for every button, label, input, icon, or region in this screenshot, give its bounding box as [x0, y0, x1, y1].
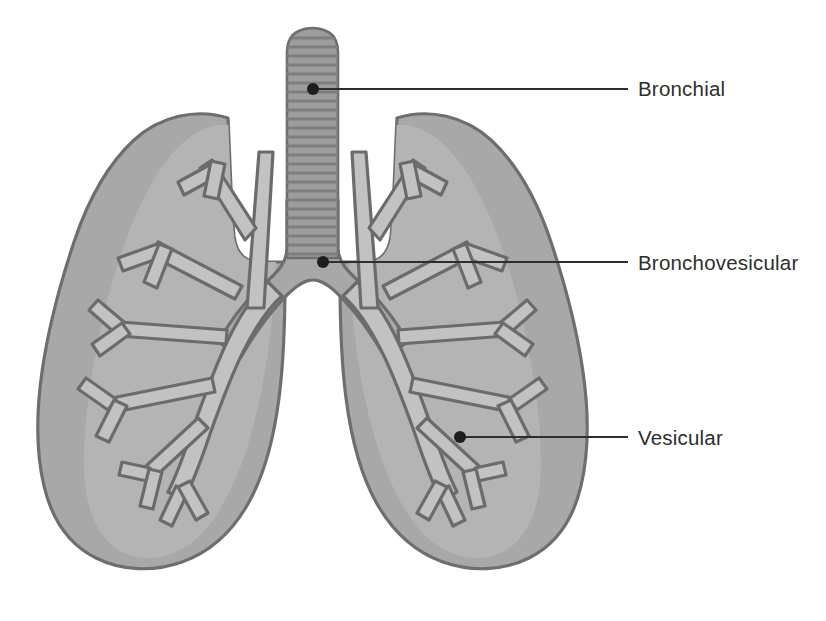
callout-label-bronchial: Bronchial — [638, 79, 725, 100]
trachea-tube — [287, 28, 338, 258]
callout-bronchial — [307, 83, 628, 95]
callout-label-vesicular: Vesicular — [638, 428, 723, 449]
trachea — [283, 28, 342, 258]
lung-diagram: Bronchial Bronchovesicular Vesicular — [0, 0, 826, 621]
marker-dot-bronchial — [307, 83, 319, 95]
callout-label-bronchovesicular: Bronchovesicular — [638, 253, 798, 274]
marker-dot-vesicular — [454, 431, 466, 443]
marker-dot-bronchovesicular — [317, 256, 329, 268]
